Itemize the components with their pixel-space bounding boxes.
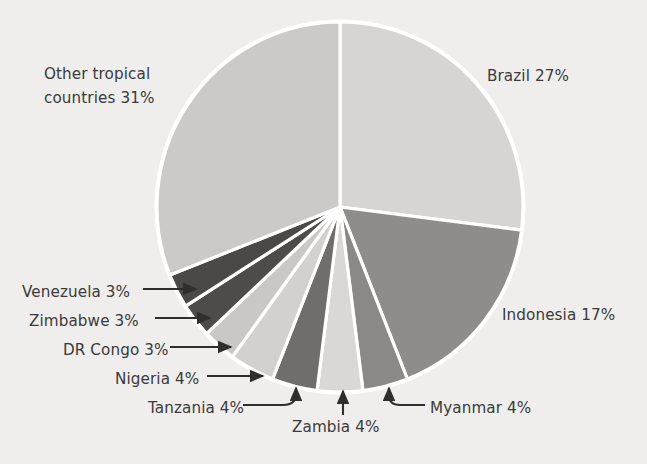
pie-slice-brazil[interactable] — [340, 22, 523, 230]
pie-slices-group — [155, 20, 526, 395]
leader-tanzania — [243, 388, 296, 405]
slice-label-zimbabwe: Zimbabwe 3% — [29, 311, 139, 331]
slice-label-dr-congo: DR Congo 3% — [63, 340, 169, 360]
slice-label-brazil: Brazil 27% — [487, 66, 569, 86]
slice-label-tanzania: Tanzania 4% — [148, 398, 244, 418]
slice-label-nigeria: Nigeria 4% — [115, 369, 199, 389]
slice-label-zambia: Zambia 4% — [292, 417, 380, 437]
slice-label-myanmar: Myanmar 4% — [430, 398, 531, 418]
pie-chart-figure: Other tropical countries 31% Brazil 27% … — [0, 0, 647, 464]
slice-label-other-tropical-countries: Other tropical countries 31% — [44, 62, 154, 110]
slice-label-indonesia: Indonesia 17% — [502, 305, 615, 325]
slice-label-venezuela: Venezuela 3% — [22, 282, 130, 302]
leader-myanmar — [389, 388, 425, 405]
